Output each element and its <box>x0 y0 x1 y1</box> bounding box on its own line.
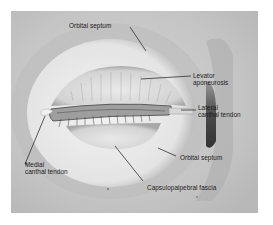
label-levator-line1: Levator <box>193 72 228 79</box>
label-orbital-septum-lower: Orbital septum <box>180 154 222 161</box>
label-lateral-canthal-tendon: Lateral canthal tendon <box>198 104 241 118</box>
label-levator-line2: aponeurosis <box>193 79 228 86</box>
label-orbital-septum-upper: Orbital septum <box>69 22 111 29</box>
label-medial-line2: canthal tendon <box>25 168 68 175</box>
label-medial-line1: Medial <box>25 161 68 168</box>
label-capsulopalpebral-fascia: Capsulopalpebral fascia <box>147 184 216 191</box>
label-lateral-line2: canthal tendon <box>198 111 241 118</box>
label-medial-canthal-tendon: Medial canthal tendon <box>25 161 68 175</box>
diagram-frame: Orbital septum Levator aponeurosis Later… <box>11 11 258 213</box>
label-levator-aponeurosis: Levator aponeurosis <box>193 72 228 86</box>
label-lateral-line1: Lateral <box>198 104 241 111</box>
